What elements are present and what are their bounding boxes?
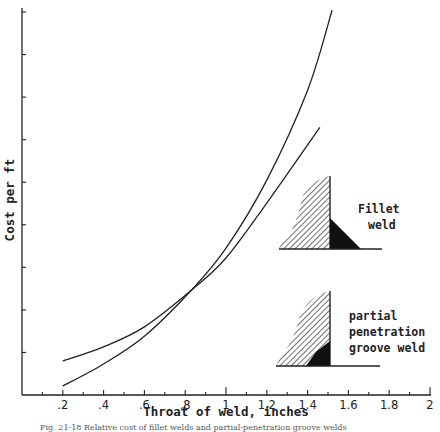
fillet-plate-hatch-icon: [279, 176, 330, 249]
fillet-label-line-1: Fillet: [358, 202, 400, 216]
cost-vs-throat-chart: .2.4.6.811.21.41.61.82 Throat of weld, i…: [0, 0, 440, 432]
y-axis-title: Cost per ft: [2, 159, 17, 242]
figure-caption: Fig. 21-18 Relative cost of fillet welds…: [40, 423, 347, 432]
fillet-weld-curve: [63, 10, 332, 386]
fillet-label-line-2: weld: [368, 218, 396, 232]
fillet-weld-inset: Fillet weld: [279, 176, 400, 249]
fillet-weld-bead-icon: [330, 218, 361, 249]
groove-label-line-3: groove weld: [349, 341, 425, 355]
x-tick-label: 1.6: [339, 398, 357, 412]
groove-label-line-1: partial: [349, 309, 398, 323]
x-tick-label: .4: [98, 398, 109, 412]
groove-label-line-2: penetration: [349, 325, 425, 339]
series-lines: [63, 10, 332, 386]
x-tick-label: 1.8: [380, 398, 398, 412]
groove-weld-inset: partial penetration groove weld: [276, 291, 425, 366]
x-tick-label: 2: [426, 398, 433, 412]
x-tick-label: .2: [57, 398, 68, 412]
x-axis-title: Throat of weld, inches: [143, 404, 309, 419]
